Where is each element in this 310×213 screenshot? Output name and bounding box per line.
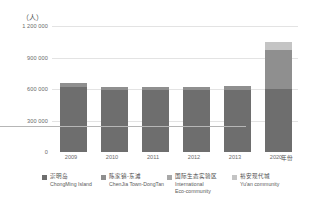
x-axis-tick-labels: 2009 2010 2011 2012 2013 2020 [52,154,298,166]
bar-segment-2010 [101,87,128,90]
legend-label-cn: 崇明岛 [50,173,68,180]
bar-segment-2009 [60,83,87,87]
legend-swatch-icon [101,175,106,180]
y-tick-600000: 600 000 [2,86,48,92]
x-axis-line [0,126,246,127]
legend-label-cn: 陈家镇-东滩 [109,173,141,180]
gridline-300000 [52,121,298,122]
x-tick-2010: 2010 [89,154,135,160]
legend-swatch-icon [167,175,172,180]
bar-segment-2011 [142,90,169,152]
y-tick-900000: 900 000 [2,55,48,61]
bar-2020 [265,26,292,152]
gridline-900000 [52,58,298,59]
bar-segment-2013 [224,90,251,152]
bar-segment-2012 [183,90,210,152]
bar-2013 [224,26,251,152]
legend-swatch-icon [232,175,237,180]
bar-segment-2020 [265,89,292,152]
legend-label-en: ChongMing Island [50,181,92,188]
bar-segment-2013 [224,86,251,90]
legend-label-en: ChenJia Town-DongTan [109,181,164,188]
bar-segment-2012 [183,87,210,90]
gridline-1200000 [52,26,298,27]
legend-label-cn: 国际生态实验区 [175,173,217,180]
legend-label-cn: 裕安现代城 [240,173,270,180]
y-axis-tick-labels: 1 200 000 900 000 600 000 300 000 0 [0,26,48,152]
bar-segment-2020 [265,42,292,50]
legend-label-en: Yu'an community [240,181,279,188]
x-tick-2012: 2012 [171,154,217,160]
bar-2010 [101,26,128,152]
bar-segment-2011 [142,87,169,90]
bar-segment-2020 [265,50,292,89]
y-tick-300000: 300 000 [2,118,48,124]
legend-label-en-line2: Eco-community [175,188,211,195]
legend-swatch-icon [42,175,47,180]
y-tick-0: 0 [2,149,48,155]
x-tick-2009: 2009 [48,154,94,160]
bar-segment-2009 [60,87,87,152]
gridline-600000 [52,89,298,90]
x-tick-2011: 2011 [130,154,176,160]
plot-area [52,26,298,152]
bar-2011 [142,26,169,152]
bar-segment-2010 [101,90,128,152]
y-axis-unit-label: （人） [22,12,44,22]
bar-2012 [183,26,210,152]
chart-legend: 崇明岛 ChongMing Island 陈家镇-东滩 ChenJia Town… [42,174,308,208]
bar-2009 [60,26,87,152]
x-axis-title: 年份 [281,154,293,162]
bar-chart: （人） 1 200 000 900 000 600 000 300 000 0 … [0,0,310,213]
y-tick-1200000: 1 200 000 [2,23,48,29]
x-tick-2013: 2013 [212,154,258,160]
